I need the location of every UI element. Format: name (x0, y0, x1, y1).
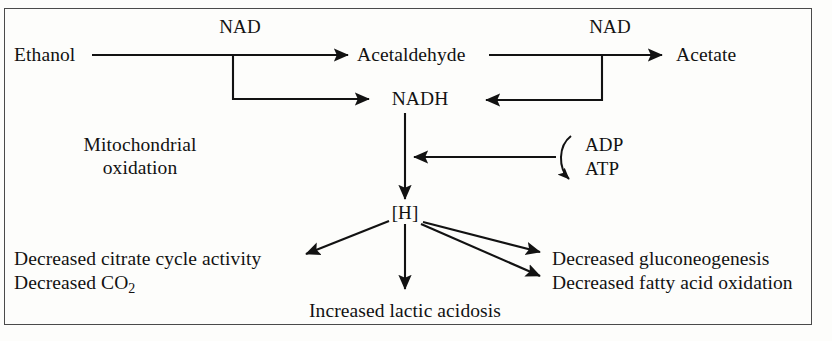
outcome-lactic-acidosis: Increased lactic acidosis (309, 300, 501, 323)
edge-nad-left-to-nadh (233, 56, 369, 99)
label-adp: ADP (585, 134, 623, 156)
annotation-line-1: Mitochondrial (84, 134, 197, 157)
outcome-co2-text: Decreased CO (14, 272, 128, 293)
node-nadh: NADH (392, 88, 449, 111)
outcome-gluconeogenesis: Decreased gluconeogenesis (552, 248, 769, 271)
pathway-figure: Ethanol NAD Acetaldehyde NAD Acetate NAD… (0, 0, 832, 341)
annotation-mitochondrial-oxidation: Mitochondrial oxidation (84, 134, 197, 179)
edge-nad-right-to-nadh (486, 56, 602, 100)
node-acetate: Acetate (676, 44, 736, 67)
adp-atp-bracket (561, 136, 571, 179)
label-nad-right: NAD (589, 16, 630, 38)
edge-h-to-gluconeogenesis (423, 222, 540, 252)
edge-h-to-fatty-acid (421, 224, 540, 276)
node-ethanol: Ethanol (14, 44, 75, 67)
node-hydrogen: [H] (392, 202, 419, 224)
label-nad-left: NAD (219, 16, 260, 38)
label-atp: ATP (585, 158, 619, 180)
outcome-fatty-acid-oxidation: Decreased fatty acid oxidation (552, 272, 793, 295)
edge-h-to-citrate-cycle (306, 221, 389, 254)
outcome-citrate-cycle: Decreased citrate cycle activity (14, 248, 261, 271)
outcome-co2: Decreased CO2 (14, 272, 135, 295)
annotation-line-2: oxidation (84, 157, 197, 180)
outcome-co2-subscript: 2 (128, 280, 135, 296)
node-acetaldehyde: Acetaldehyde (357, 44, 465, 67)
